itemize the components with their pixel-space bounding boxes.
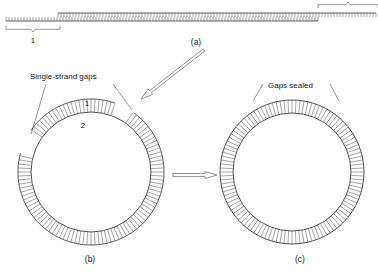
- panel-c-base-rung: [220, 164, 233, 165]
- panel-b-base-rung: [94, 232, 95, 245]
- panel-c-base-rung: [250, 113, 258, 124]
- panel-c-base-rung: [276, 102, 279, 115]
- panel-b-base-rung: [150, 160, 163, 162]
- panel-b-base-rung: [131, 118, 140, 128]
- panel-c-base-rung: [236, 127, 246, 135]
- panel-c-base-rung: [305, 230, 308, 243]
- panel-c-base-rung: [331, 118, 340, 128]
- panel-c-base-rung: [299, 231, 300, 244]
- panel-c-base-rung: [315, 105, 320, 117]
- panel-c-base-rung: [288, 231, 289, 244]
- brace-brace-segment-right: [318, 2, 378, 8]
- panel-c-base-rung: [342, 203, 353, 210]
- panel-c-base-rung: [223, 152, 236, 156]
- panel-caption-c: (c): [295, 254, 305, 264]
- panel-c-base-rung: [236, 209, 246, 217]
- panel-b-base-rung: [136, 212, 146, 221]
- dna-gap-sealing-figure: 1 Single-strand gaps12 Gaps sealed (a)(b…: [0, 0, 378, 276]
- panel-b-base-rung: [101, 100, 103, 113]
- panel-b-base-rung: [114, 227, 119, 239]
- panel-b-base-rung: [18, 179, 31, 180]
- panel-c-base-rung: [350, 182, 363, 184]
- panel-b-inner-strand: [31, 112, 151, 232]
- panel-b-base-rung: [140, 130, 151, 138]
- panel-b-base-rung: [126, 221, 134, 232]
- panel-c-base-rung: [334, 121, 343, 130]
- panel-b-base-rung: [98, 99, 99, 112]
- panel-c-base-rung: [225, 144, 237, 149]
- panel-b-base-rung: [138, 209, 148, 217]
- panel-c-base-rung: [302, 101, 304, 114]
- panel-c-base-rung: [220, 168, 233, 169]
- panel-c-base-rung: [311, 104, 315, 116]
- panel-b-base-rung: [22, 192, 34, 196]
- panel-c-base-rung: [347, 195, 359, 200]
- panel-c-base-rung: [299, 100, 300, 113]
- sealed-leader-line: [253, 84, 263, 101]
- panel-b-base-rung: [34, 126, 44, 134]
- panel-c-base-rung: [338, 209, 348, 217]
- strand-bottom-strand-left: [6, 17, 318, 21]
- panel-c-base-rung: [326, 113, 334, 124]
- panel-b-base-rung: [151, 179, 164, 180]
- panel-b-base-rung: [150, 156, 163, 159]
- panel-caption-b: (b): [85, 254, 96, 264]
- panel-c-base-rung: [223, 188, 236, 192]
- panel-c-base-rung: [222, 156, 235, 159]
- panel-b-base-rung: [63, 105, 68, 117]
- panel-c-base-rung: [342, 134, 353, 141]
- panel-c-base-rung: [238, 211, 248, 220]
- panel-c-base-rung: [336, 124, 346, 133]
- panel-b-base-rung: [37, 123, 47, 132]
- gap-leader-line: [113, 84, 132, 110]
- arrow-a-to-b-icon: [141, 49, 205, 99]
- panel-c-base-rung: [280, 230, 282, 243]
- brace-label-1: 1: [31, 36, 36, 45]
- panel-c-base-rung: [295, 231, 296, 244]
- panel-b-base-rung: [128, 219, 136, 229]
- panel-c-base-rung: [326, 220, 334, 231]
- panel-c-base-rung: [264, 227, 269, 239]
- panel-c-base-rung: [254, 222, 261, 233]
- panel-c-base-rung: [272, 103, 276, 116]
- panel-b-base-rung: [126, 112, 134, 123]
- panel-b-base-rung: [83, 232, 84, 245]
- panel-b-base-rung: [111, 229, 115, 241]
- arrow-b-to-c-icon: [173, 172, 217, 179]
- panel-c-base-rung: [351, 168, 364, 169]
- panel-c-base-rung: [323, 222, 330, 233]
- panel-c-base-rung: [288, 100, 289, 113]
- panel-b-base-rung: [20, 185, 33, 188]
- panel-c-base-rung: [272, 229, 276, 242]
- panel-c-base-rung: [323, 111, 330, 122]
- gaps-sealed-label: Gaps sealed: [268, 81, 313, 90]
- panel-c-base-rung: [295, 100, 296, 113]
- brace-brace-segment-1: [6, 26, 60, 32]
- panel-c-base-rung: [244, 216, 253, 226]
- panel-c-base-rung: [264, 105, 269, 117]
- panel-c-base-rung: [244, 118, 253, 128]
- panel-b-outer-strand-arc: [18, 153, 164, 245]
- panel-b-base-rung: [87, 232, 88, 245]
- panel-b-base-rung: [67, 229, 71, 241]
- panel-c-base-rung: [350, 156, 363, 159]
- panel-c-base-rung: [284, 100, 285, 113]
- strand-2-label: 2: [81, 121, 86, 130]
- panel-b-base-rung: [146, 144, 158, 149]
- panel-b-base-rung: [133, 214, 142, 223]
- panel-b-base-rung: [37, 212, 47, 221]
- panel-b-base-rung: [149, 152, 161, 156]
- panel-b-base-rung: [24, 195, 36, 200]
- panel-c-base-rung: [308, 229, 312, 242]
- panel-c-base-rung: [308, 103, 312, 116]
- panel-c-base-rung: [225, 195, 237, 200]
- panel-b-base-rung: [149, 189, 161, 193]
- panel-c-base-rung: [268, 104, 272, 116]
- panel-c-base-rung: [221, 182, 234, 184]
- strand-1-label: 1: [85, 99, 90, 108]
- panel-c-base-rung: [340, 130, 351, 138]
- panel-c-base-rung: [334, 214, 343, 223]
- panel-c-base-rung: [348, 191, 360, 195]
- panel-b-base-rung: [136, 123, 146, 132]
- panel-c-base-rung: [349, 188, 362, 192]
